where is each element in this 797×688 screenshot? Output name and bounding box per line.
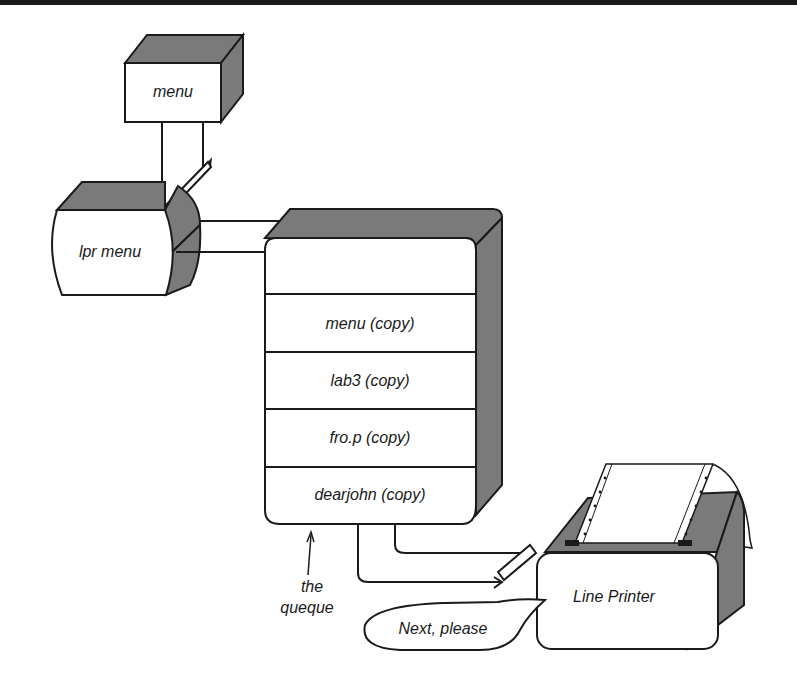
queue-caption-line1: the xyxy=(301,578,323,595)
menu-file-label: menu xyxy=(153,83,193,100)
speech-bubble-text: Next, please xyxy=(399,620,488,637)
queue-slot-3: fro.p (copy) xyxy=(330,429,411,446)
queue-caption-line2: queque xyxy=(280,599,333,616)
print-queue: menu (copy) lab3 (copy) fro.p (copy) dea… xyxy=(265,209,502,524)
line-printer: Line Printer xyxy=(537,464,752,649)
queue-to-printer-paths xyxy=(358,525,536,588)
queue-caption: the queque xyxy=(280,532,333,616)
speech-bubble: Next, please xyxy=(364,599,545,650)
line-printer-label: Line Printer xyxy=(573,588,655,605)
print-queue-diagram: menu lpr menu menu (copy) lab3 (copy) fr… xyxy=(0,0,797,688)
queue-slot-4: dearjohn (copy) xyxy=(314,486,425,503)
lpr-command-box: lpr menu xyxy=(52,182,200,295)
menu-file-box: menu xyxy=(125,35,243,122)
queue-slot-1: menu (copy) xyxy=(326,315,415,332)
queue-slot-2: lab3 (copy) xyxy=(330,372,409,389)
lpr-command-label: lpr menu xyxy=(79,243,141,260)
